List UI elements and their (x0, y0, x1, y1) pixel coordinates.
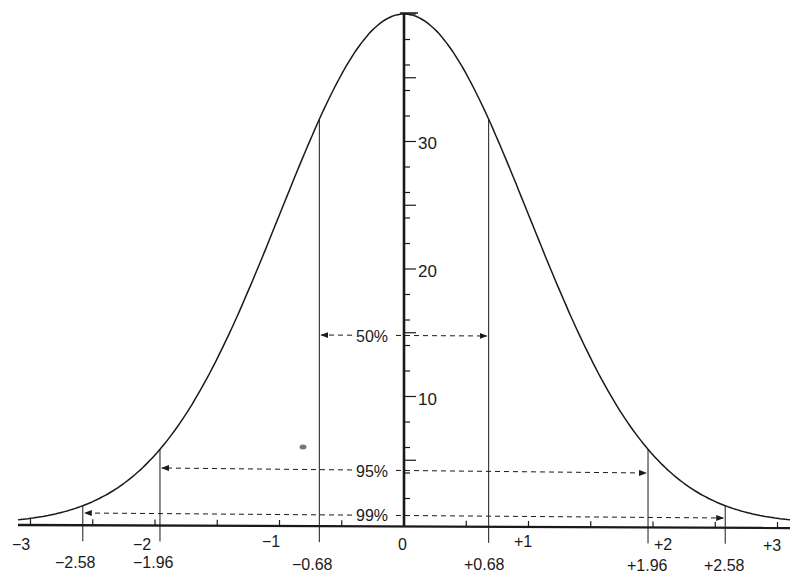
x-label-m3: −3 (12, 536, 30, 553)
print-smudge (300, 445, 307, 450)
y-label-10: 10 (418, 390, 437, 409)
interval-label-99: 99% (356, 507, 388, 524)
y-label-20: 20 (418, 262, 437, 281)
marker-label-m068: −0.68 (292, 556, 333, 573)
y-label-30: 30 (418, 134, 437, 153)
interval-arrow-right (396, 515, 723, 518)
interval-arrow-right (396, 335, 487, 336)
x-label-p3: +3 (763, 537, 781, 554)
x-label-p1: +1 (514, 533, 532, 550)
interval-arrow-right (396, 470, 646, 473)
x-label-p2: +2 (654, 536, 672, 553)
x-label-m1: −1 (262, 533, 280, 550)
marker-label-p068: +0.68 (464, 556, 505, 573)
interval-label-50: 50% (356, 328, 388, 345)
x-label-zero: 0 (398, 536, 407, 553)
marker-label-p258: +2.58 (704, 557, 745, 574)
marker-label-m258: −2.58 (55, 554, 96, 571)
marker-label-p196: +1.96 (627, 557, 668, 574)
interval-label-95: 95% (356, 463, 388, 480)
normal-distribution-chart: 30 20 10 50% 95% 99% −3 −2 −1 0 +1 +2 +3… (0, 0, 799, 583)
marker-label-m196: −1.96 (133, 554, 174, 571)
x-label-m2: −2 (133, 536, 151, 553)
interval-arrow-left (162, 468, 352, 470)
interval-arrow-left (85, 513, 352, 515)
